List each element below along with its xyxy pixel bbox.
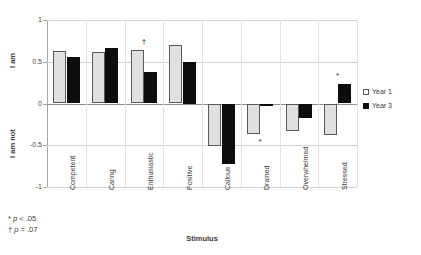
y-axis-label-high: I am [8,40,17,80]
x-axis-title: Stimulus [47,234,357,243]
bar-enthusiastic-year-1 [131,50,144,103]
y-tick-label: -1 [36,183,42,190]
legend-item-label: Year 3 [372,102,392,109]
bar-overwhelmed-year-3 [299,104,312,118]
bar-drained-year-3 [260,104,273,106]
category-divider [86,20,87,187]
footnote-value: = .07 [18,225,37,234]
y-tick: 1 [0,16,42,24]
bar-competent-year-1 [53,51,66,104]
legend-item-year-3: Year 3 [363,102,392,109]
y-tick: -1 [0,183,42,191]
category-divider [318,20,319,187]
y-tick-label: 0.5 [32,58,42,65]
bar-caring-year-1 [92,52,105,104]
category-divider [125,20,126,187]
x-tick-label-callous: Callous [224,167,231,190]
y-tick: 0.5 [0,58,42,66]
bar-overwhelmed-year-1 [286,104,299,132]
legend-swatch-icon [363,103,369,109]
x-tick-label-drained: Drained [263,165,270,190]
bar-callous-year-1 [208,104,221,147]
category-divider [357,20,358,187]
bar-stressed-year-3 [338,84,351,103]
bar-enthusiastic-year-3 [144,72,157,104]
bar-stressed-year-1 [324,104,337,136]
category-divider [280,20,281,187]
legend-swatch-icon [363,89,369,95]
y-tick-label: 0 [38,100,42,107]
bar-callous-year-3 [222,104,235,164]
bar-drained-year-1 [247,104,260,134]
bar-competent-year-3 [67,57,80,104]
bar-positive-year-1 [169,45,182,103]
y-tick-label: 1 [38,16,42,23]
y-tick: 0 [0,100,42,108]
y-tick-label: -0.5 [30,141,42,148]
legend-item-label: Year 1 [372,88,392,95]
category-divider [241,20,242,187]
significance-marker-enthusiastic: † [131,38,158,46]
y-tick-mark [43,187,47,188]
significance-marker-drained: * [247,138,274,146]
y-axis-label-low: I am not [8,118,17,170]
x-tick-label-stressed: Stressed [341,162,348,190]
category-divider [163,20,164,187]
x-tick-label-competent: Competent [69,156,76,190]
gridline-neg1 [47,187,357,188]
legend-item-year-1: Year 1 [363,88,392,95]
x-tick-label-enthusiastic: Enthusiastic [147,152,154,190]
significance-marker-stressed: * [324,72,351,80]
plot-area: †** [47,20,357,187]
footnote-value: < .05 [17,214,36,223]
y-tick: -0.5 [0,141,42,149]
x-tick-label-caring: Caring [108,169,115,190]
category-divider [202,20,203,187]
bar-chart-figure: 10.50-0.5-1 I am I am not †** CompetentC… [0,0,421,255]
bar-caring-year-3 [105,48,118,103]
footnote: † p = .07 [8,225,37,236]
bar-positive-year-3 [183,62,196,104]
footnote: * p < .05 [8,214,37,225]
footnotes-block: * p < .05† p = .07 [8,214,37,236]
x-tick-label-positive: Positive [186,165,193,190]
chart-legend: Year 1Year 3 [363,88,392,116]
x-tick-label-overwhelmed: Overwhelmed [302,147,309,190]
